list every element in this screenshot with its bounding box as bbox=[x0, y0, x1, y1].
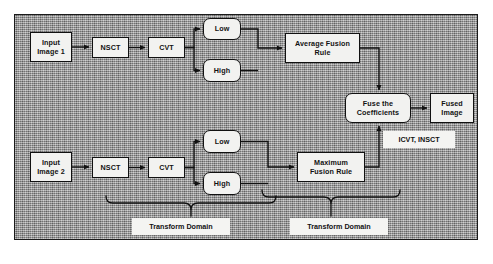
node-high-2: High bbox=[203, 172, 241, 195]
annotation-transform-domain-left: Transform Domain bbox=[132, 218, 230, 235]
node-input-image-2: Input Image 2 bbox=[30, 152, 72, 182]
node-nsct-2: NSCT bbox=[92, 157, 129, 178]
node-average-fusion-rule: Average Fusion Rule bbox=[285, 33, 360, 63]
node-low-2: Low bbox=[203, 130, 241, 153]
node-low-1: Low bbox=[203, 18, 241, 40]
node-cvt-2: CVT bbox=[148, 157, 185, 178]
node-high-1: High bbox=[203, 59, 241, 82]
node-cvt-1: CVT bbox=[148, 37, 185, 58]
annotation-icvt-insct: ICVT, INSCT bbox=[383, 131, 455, 148]
node-input-image-1: Input Image 1 bbox=[30, 32, 72, 62]
merge-lines bbox=[241, 71, 268, 184]
brace-left bbox=[106, 196, 276, 216]
brace-right bbox=[262, 190, 400, 216]
annotation-transform-domain-right: Transform Domain bbox=[290, 218, 388, 235]
node-nsct-1: NSCT bbox=[92, 37, 129, 58]
figure-root: Input Image 1 NSCT CVT Low High Average … bbox=[0, 0, 493, 264]
node-fuse-the-coefficients: Fuse the Coefficients bbox=[345, 93, 411, 123]
node-fused-image: Fused Image bbox=[430, 93, 474, 123]
node-maximum-fusion-rule: Maximum Fusion Rule bbox=[297, 152, 365, 182]
